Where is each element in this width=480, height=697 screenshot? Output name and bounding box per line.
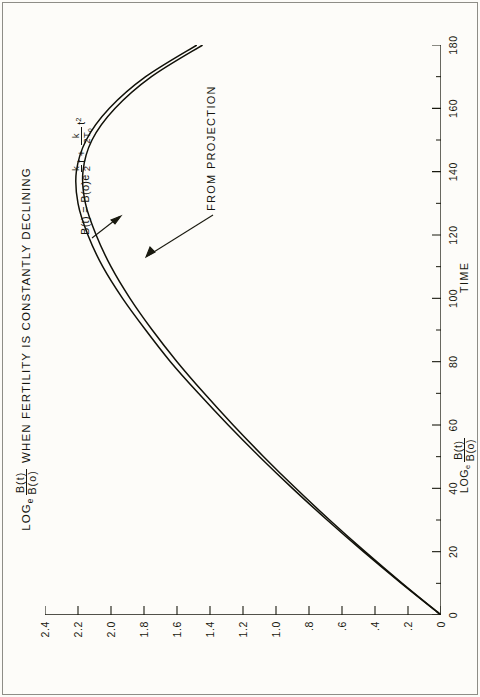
x-tick-label: 140: [447, 162, 459, 181]
x-axis-minor-ticks: [436, 76, 441, 583]
equation-exponent: k2t + k2Tot2: [76, 117, 87, 174]
title-rest: WHEN FERTILITY IS CONSTANTLY DECLINING: [20, 167, 32, 463]
exp-t-1: t: [76, 159, 87, 162]
projection-leader-line: [149, 215, 213, 255]
y-tick-label: .2: [402, 621, 414, 631]
x-tick-label: 160: [447, 98, 459, 117]
y-tick-label: 0: [435, 621, 447, 627]
plot-area: 020406080100120140160180 0.2.4.6.81.01.2…: [45, 45, 441, 615]
y-tick-label: 1.6: [171, 621, 183, 637]
y-tick-label: 2.2: [72, 621, 84, 637]
y-tick-label: 1.2: [237, 621, 249, 637]
equation-lead: B(t) = B(o)e: [79, 174, 91, 235]
x-tick-label: 180: [447, 35, 459, 54]
y-tick-label: 2.4: [39, 621, 51, 637]
y-axis-title: LOGeB(t)B(o): [453, 435, 476, 492]
title-log-subscript: e: [26, 497, 35, 503]
curve-analytic: [76, 45, 441, 615]
y-tick-label: 2.0: [105, 621, 117, 637]
projection-arrowhead: [146, 247, 155, 257]
x-axis-title: TIME: [458, 261, 470, 292]
ylabel-fraction: B(t)B(o): [453, 437, 476, 461]
title-fraction: B(t)B(o): [15, 469, 38, 495]
y-tick-label: 1.4: [204, 621, 216, 637]
chart-svg: [45, 45, 441, 615]
y-tick-label: .8: [303, 621, 315, 631]
x-tick-label: 20: [447, 545, 459, 558]
title-fraction-denominator: B(o): [27, 469, 38, 495]
ylabel-log-subscript: e: [463, 464, 472, 469]
exp-t-2-superscript: 2: [74, 117, 83, 121]
exp-fraction-2-den-pre: 2T: [81, 131, 92, 143]
x-tick-label: 80: [447, 355, 459, 368]
exp-fraction-1-denominator: 2: [82, 164, 92, 172]
ylabel-fraction-denominator: B(o): [465, 437, 476, 461]
exp-fraction-2: k2To: [71, 126, 93, 144]
exp-plus: +: [76, 149, 87, 155]
exp-fraction-2-den-subscript: o: [86, 127, 93, 131]
annotation-leaders: [92, 215, 213, 257]
x-tick-label: 60: [447, 418, 459, 431]
y-tick-label: .4: [369, 621, 381, 631]
curve-from-projection: [83, 45, 441, 615]
title-log-prefix: LOG: [20, 503, 32, 531]
equation-annotation: B(t) = B(o)ek2t + k2Tot2: [71, 117, 93, 235]
scanned-page: LOGeB(t)B(o) WHEN FERTILITY IS CONSTANTL…: [0, 0, 480, 697]
y-tick-label: 1.8: [138, 621, 150, 637]
ylabel-log-prefix: LOG: [458, 469, 470, 493]
rotated-figure: LOGeB(t)B(o) WHEN FERTILITY IS CONSTANTL…: [9, 11, 471, 687]
x-tick-label: 120: [447, 225, 459, 244]
chart-title: LOGeB(t)B(o) WHEN FERTILITY IS CONSTANTL…: [15, 11, 38, 687]
y-tick-label: .6: [336, 621, 348, 631]
y-tick-label: 1.0: [270, 621, 282, 637]
x-tick-label: 0: [447, 611, 459, 617]
from-projection-annotation: FROM PROJECTION: [205, 85, 217, 211]
exp-fraction-2-denominator: 2To: [82, 126, 93, 144]
y-axis-ticks: [45, 606, 441, 615]
exp-fraction-1: k2: [71, 164, 92, 172]
